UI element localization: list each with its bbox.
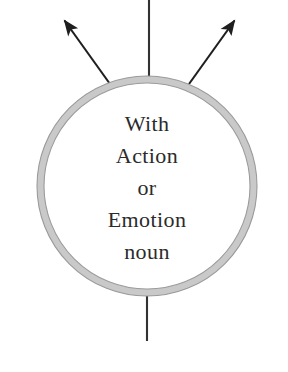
edge-upper-right-arrow — [189, 21, 235, 85]
node-label-line-1: With — [125, 111, 170, 136]
diagram-svg: With Action or Emotion noun — [0, 0, 288, 372]
node-label-line-3: or — [137, 175, 156, 200]
node-label-line-4: Emotion — [108, 207, 187, 232]
edge-upper-left-arrow — [65, 21, 111, 85]
node-label-line-2: Action — [116, 143, 178, 168]
diagram-canvas: With Action or Emotion noun — [0, 0, 288, 372]
node-label-line-5: noun — [124, 239, 170, 264]
